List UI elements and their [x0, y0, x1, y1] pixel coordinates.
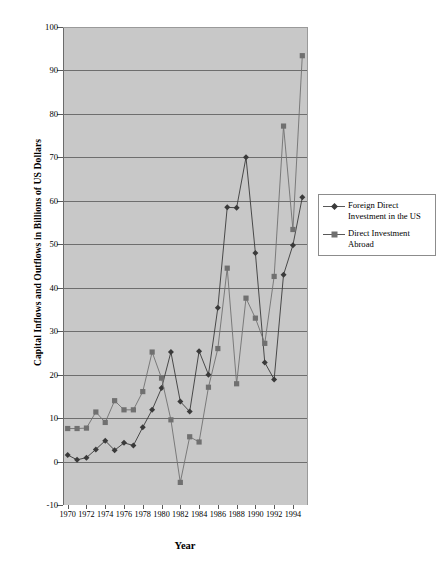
square-marker-icon: [323, 229, 345, 240]
x-tick-mark: [180, 505, 181, 509]
diamond-marker-icon: [323, 201, 345, 212]
x-tick-label: 1994: [276, 510, 310, 519]
y-tick-label: 40: [28, 284, 58, 293]
x-tick-mark: [162, 505, 163, 509]
gridline: [64, 462, 308, 463]
legend-item-foreign-direct-investment-us[interactable]: Foreign Direct Investment in the US: [323, 200, 431, 221]
x-tick-mark: [218, 505, 219, 509]
x-tick-mark: [105, 505, 106, 509]
y-tick-label: 80: [28, 110, 58, 119]
x-tick-mark: [124, 505, 125, 509]
x-tick-mark: [68, 505, 69, 509]
gridline: [64, 418, 308, 419]
x-tick-mark: [255, 505, 256, 509]
plot-frame-top: [63, 27, 308, 28]
legend-label-direct-investment-abroad: Direct Investment Abroad: [348, 228, 410, 249]
y-tick-label: 90: [28, 66, 58, 75]
plot-area: [63, 27, 308, 505]
gridline: [64, 70, 308, 71]
gridline: [64, 157, 308, 158]
y-tick-label: 60: [28, 197, 58, 206]
y-tick-label: 50: [28, 240, 58, 249]
y-tick-label: 100: [28, 23, 58, 32]
y-tick-label: -10: [28, 501, 58, 510]
plot-frame-right: [307, 27, 308, 505]
diamond-glyph: [331, 203, 338, 210]
x-tick-mark: [86, 505, 87, 509]
chart-container: Capital Inflows and Outflows in Billions…: [0, 0, 444, 569]
chart-legend: Foreign Direct Investment in the US Dire…: [318, 194, 436, 256]
gridline: [64, 244, 308, 245]
y-tick-label: 30: [28, 327, 58, 336]
x-axis-title: Year: [60, 540, 310, 551]
y-tick-label: 10: [28, 414, 58, 423]
y-tick-label: 70: [28, 153, 58, 162]
gridline: [64, 331, 308, 332]
x-tick-mark: [293, 505, 294, 509]
gridline: [64, 201, 308, 202]
y-tick-label: 20: [28, 371, 58, 380]
x-tick-mark: [274, 505, 275, 509]
gridline: [64, 288, 308, 289]
x-tick-mark: [237, 505, 238, 509]
x-tick-mark: [199, 505, 200, 509]
legend-label-foreign-direct-investment-us: Foreign Direct Investment in the US: [348, 200, 421, 221]
gridline: [64, 114, 308, 115]
gridline: [64, 375, 308, 376]
square-glyph: [331, 231, 338, 238]
y-tick-label: 0: [28, 458, 58, 467]
x-tick-mark: [143, 505, 144, 509]
legend-item-direct-investment-abroad[interactable]: Direct Investment Abroad: [323, 228, 431, 249]
